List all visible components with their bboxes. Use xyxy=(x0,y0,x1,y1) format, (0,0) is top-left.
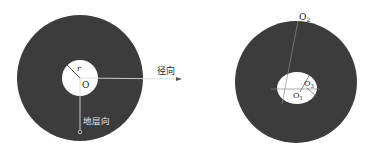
left-diagram: r O 径向 地层向 xyxy=(17,15,182,141)
vertical-direction-label: 地层向 xyxy=(83,116,110,126)
figure-canvas: r O 径向 地层向 O2 O1 O3 xyxy=(0,0,372,157)
center-label: O xyxy=(82,80,89,90)
top-label: O2 xyxy=(299,12,310,23)
radial-arrow-icon xyxy=(176,77,182,81)
radial-direction-label: 径向 xyxy=(157,65,175,76)
right-diagram: O2 O1 O3 xyxy=(235,12,357,143)
